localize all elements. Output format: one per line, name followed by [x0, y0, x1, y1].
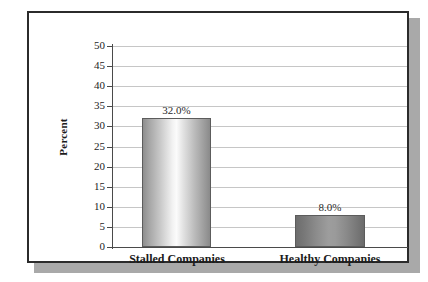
y-tick-35 — [107, 106, 112, 107]
figure-frame: Percent 50 45 40 35 30 25 20 — [27, 11, 409, 263]
y-tick-0 — [107, 247, 112, 248]
y-tick-25 — [107, 147, 112, 148]
y-tick-30 — [107, 126, 112, 127]
y-tick-label-5: 5 — [85, 221, 105, 232]
y-axis-line — [112, 44, 113, 249]
y-tick-label-50: 50 — [85, 40, 105, 51]
y-axis-title: Percent — [57, 97, 69, 177]
y-tick-label-25: 25 — [85, 141, 105, 152]
x-category-label-stalled: Stalled Companies — [107, 253, 247, 266]
y-tick-15 — [107, 187, 112, 188]
bar-value-label-healthy: 8.0% — [295, 202, 365, 213]
y-tick-5 — [107, 227, 112, 228]
gridline-45 — [113, 66, 407, 67]
y-tick-label-40: 40 — [85, 80, 105, 91]
bar-stalled-companies[interactable] — [142, 118, 211, 247]
y-tick-50 — [107, 46, 112, 47]
y-tick-45 — [107, 66, 112, 67]
y-tick-label-35: 35 — [85, 100, 105, 111]
chart-screenshot: Percent 50 45 40 35 30 25 20 — [0, 0, 428, 282]
bar-value-label-stalled: 32.0% — [142, 105, 211, 116]
y-tick-label-10: 10 — [85, 201, 105, 212]
bar-healthy-companies[interactable] — [295, 215, 365, 247]
y-tick-40 — [107, 86, 112, 87]
y-tick-10 — [107, 207, 112, 208]
x-axis-line — [112, 247, 408, 248]
x-category-label-healthy: Healthy Companies — [260, 253, 400, 266]
y-tick-label-20: 20 — [85, 161, 105, 172]
y-tick-label-30: 30 — [85, 120, 105, 131]
gridline-50 — [113, 46, 407, 47]
y-tick-20 — [107, 167, 112, 168]
y-tick-label-15: 15 — [85, 181, 105, 192]
gridline-40 — [113, 86, 407, 87]
y-tick-label-45: 45 — [85, 60, 105, 71]
y-tick-label-0: 0 — [85, 241, 105, 252]
